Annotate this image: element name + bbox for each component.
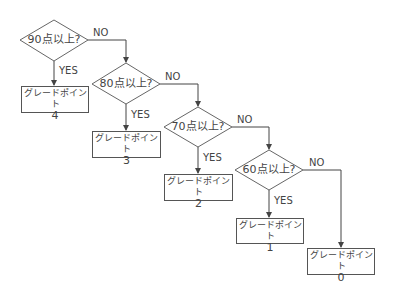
outcome-box-4: グレードポイント 4	[21, 86, 89, 113]
outcome-value: 4	[22, 110, 88, 122]
decision-70: 70点以上?	[164, 120, 232, 134]
decision-90: 90点以上?	[20, 33, 88, 47]
outcome-title: グレードポイント	[22, 88, 88, 110]
yes-label-80: YES	[131, 109, 150, 121]
yes-label-60: YES	[274, 195, 293, 207]
outcome-value: 2	[165, 198, 232, 210]
outcome-value: 1	[237, 242, 303, 254]
outcome-box-3: グレードポイント 3	[92, 131, 161, 158]
no-label-90: NO	[93, 27, 108, 39]
decision-80: 80点以上?	[92, 77, 160, 91]
no-label-80: NO	[165, 71, 180, 83]
outcome-box-0: グレードポイント 0	[307, 248, 375, 275]
decision-60: 60点以上?	[235, 163, 303, 177]
outcome-title: グレードポイント	[165, 176, 232, 198]
no-label-60: NO	[309, 157, 324, 169]
outcome-title: グレードポイント	[308, 250, 374, 272]
no-label-70: NO	[237, 114, 252, 126]
outcome-value: 0	[308, 272, 374, 284]
yes-label-70: YES	[203, 152, 222, 164]
outcome-title: グレードポイント	[93, 133, 160, 155]
outcome-value: 3	[93, 155, 160, 167]
outcome-box-2: グレードポイント 2	[164, 174, 233, 201]
outcome-box-1: グレードポイント 1	[236, 218, 304, 244]
outcome-title: グレードポイント	[237, 220, 303, 242]
yes-label-90: YES	[59, 65, 78, 77]
